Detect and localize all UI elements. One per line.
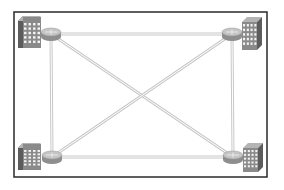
links-layer [51,34,233,157]
router-icon [41,28,61,41]
router-icon [223,151,243,164]
building-icon [243,143,263,172]
router-icon [222,28,242,41]
building-icon [18,16,41,48]
building-icon [18,143,41,170]
link-site-top-right-to-site-bottom-right [232,34,233,157]
network-diagram [0,0,284,190]
link-site-top-left-to-site-bottom-left [51,34,52,157]
router-icon [42,151,62,164]
site-top-left [18,16,61,48]
building-icon [242,17,262,50]
site-top-right [222,17,262,50]
site-bottom-right [223,143,263,172]
site-bottom-left [18,143,62,170]
